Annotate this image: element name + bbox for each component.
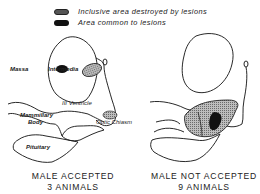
right-caption-line1: MALE NOT ACCEPTED xyxy=(148,171,260,182)
left-caption-line2: 3 ANIMALS xyxy=(18,182,128,193)
label-massa: Massa xyxy=(10,66,28,73)
label-optic-chiasm: Optic Chiasm xyxy=(96,119,132,126)
label-mammillary: Mammillary Body xyxy=(20,112,53,126)
left-caption: MALE ACCEPTED 3 ANIMALS xyxy=(18,171,128,193)
lesion-inclusive-left xyxy=(81,61,104,79)
right-brain-outline xyxy=(150,34,248,162)
brain-diagram xyxy=(0,0,260,194)
left-caption-line1: MALE ACCEPTED xyxy=(18,171,128,182)
lesion-inclusive-chiasm xyxy=(103,111,117,119)
label-mammillary-line1: Mammillary xyxy=(20,112,53,119)
right-caption-line2: 9 ANIMALS xyxy=(148,182,260,193)
label-pituitary: Pituitary xyxy=(26,144,50,151)
right-caption: MALE NOT ACCEPTED 9 ANIMALS xyxy=(148,171,260,193)
label-ventricle: III Ventricle xyxy=(62,100,92,107)
label-intermedia: Intermedia xyxy=(48,66,78,73)
label-mammillary-line2: Body xyxy=(20,119,53,126)
